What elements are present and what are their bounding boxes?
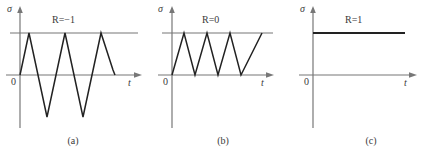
- panel-b-stress-waveform: [172, 33, 262, 75]
- panel-c-y-axis-label: σ: [300, 4, 305, 14]
- panel-b-y-axis-arrow: [169, 6, 175, 13]
- panel-a-reversed-cycle: σ t 0 R=−1 (a): [0, 0, 150, 160]
- panel-b-origin-label: 0: [163, 77, 168, 87]
- panel-c-stress-ratio-label: R=1: [345, 15, 362, 25]
- panel-b-zero-to-tension-cycle: σ t 0 R=0 (b): [150, 0, 285, 160]
- panel-b-x-axis-arrow: [266, 72, 274, 78]
- panel-c-x-axis-label: t: [404, 78, 407, 88]
- panel-c-static-stress: σ t 0 R=1 (c): [285, 0, 428, 160]
- panel-c-origin-label: 0: [304, 77, 309, 87]
- panel-a-stress-ratio-label: R=−1: [52, 15, 75, 25]
- panel-b-caption: (b): [210, 136, 236, 146]
- panel-a-origin-label: 0: [11, 77, 16, 87]
- fatigue-stress-waveform-figure: σ t 0 R=−1 (a) σ t 0 R=0 (b): [0, 0, 428, 160]
- panel-b-y-axis-label: σ: [158, 4, 163, 14]
- panel-a-y-axis-arrow: [17, 6, 23, 13]
- panel-a-caption: (a): [60, 136, 86, 146]
- panel-b-x-axis-label: t: [261, 78, 264, 88]
- panel-a-plot: [0, 0, 150, 132]
- panel-c-x-axis-arrow: [409, 72, 417, 78]
- panel-c-caption: (c): [358, 136, 384, 146]
- panel-a-x-axis-label: t: [128, 78, 131, 88]
- panel-a-x-axis-arrow: [134, 72, 142, 78]
- panel-c-y-axis-arrow: [310, 6, 316, 13]
- panel-a-y-axis-label: σ: [7, 4, 12, 14]
- panel-b-stress-ratio-label: R=0: [202, 15, 219, 25]
